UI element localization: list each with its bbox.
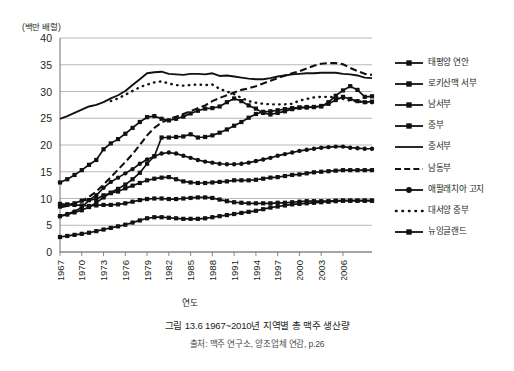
legend-item[interactable]: 태평양 연안 xyxy=(394,50,514,71)
y-tick-label: 25 xyxy=(40,112,52,124)
legend-symbol-icon xyxy=(394,55,424,67)
legend-item[interactable]: 로키산맥 서부 xyxy=(394,71,514,92)
x-tick-label: 1976 xyxy=(120,260,131,280)
y-tick-label: 15 xyxy=(40,166,52,178)
legend-item-label: 대서양 중부 xyxy=(428,203,469,215)
x-tick-label: 1988 xyxy=(207,260,218,280)
chart-legend: 태평양 연안로키산맥 서부남서부중부중서부남동부애팔래치아 고지대서양 중부뉴잉… xyxy=(394,50,514,241)
legend-symbol-icon xyxy=(394,224,424,236)
x-tick-label: 1991 xyxy=(229,260,240,280)
figure-caption: 그림 13.6 1967~2010년 지역별 총 맥주 생산량 xyxy=(0,318,514,332)
x-tick-label: 1973 xyxy=(98,260,109,280)
y-tick-label: 40 xyxy=(40,32,52,44)
y-tick-label: 30 xyxy=(40,86,52,98)
x-tick-label: 2003 xyxy=(316,260,327,280)
figure-source: 출처: 맥주 연구소, 양조업체 연감, p.26 xyxy=(0,337,514,349)
legend-item[interactable]: 남서부 xyxy=(394,92,514,113)
x-tick-label: 1982 xyxy=(163,260,174,280)
legend-item[interactable]: 중부 xyxy=(394,114,514,135)
legend-item-label: 뉴잉글랜드 xyxy=(428,224,467,236)
legend-symbol-icon xyxy=(394,76,424,88)
y-tick-label: 5 xyxy=(46,219,52,231)
y-tick-label: 0 xyxy=(46,246,52,258)
x-tick-label: 1970 xyxy=(76,260,87,280)
x-tick-label: 1997 xyxy=(272,260,283,280)
y-tick-label: 20 xyxy=(40,139,52,151)
x-tick-label: 1985 xyxy=(185,260,196,280)
legend-symbol-icon xyxy=(394,139,424,151)
x-tick-label: 2006 xyxy=(338,260,349,280)
legend-item[interactable]: 중서부 xyxy=(394,135,514,156)
legend-item[interactable]: 애팔래치아 고지 xyxy=(394,177,514,198)
legend-item[interactable]: 뉴잉글랜드 xyxy=(394,220,514,241)
x-axis-title: 연도 xyxy=(0,296,380,309)
x-tick-label: 1967 xyxy=(55,260,66,280)
legend-symbol-icon xyxy=(394,203,424,215)
legend-item-label: 중서부 xyxy=(428,139,451,151)
y-tick-label: 35 xyxy=(40,59,52,71)
legend-symbol-icon xyxy=(394,97,424,109)
legend-item-label: 중부 xyxy=(428,118,443,130)
series-0 xyxy=(60,72,372,119)
y-tick-label: 10 xyxy=(40,193,52,205)
legend-symbol-icon xyxy=(394,118,424,130)
legend-item-label: 애팔래치아 고지 xyxy=(428,182,484,194)
x-tick-label: 2000 xyxy=(294,260,305,280)
x-tick-label: 1994 xyxy=(251,259,262,280)
legend-symbol-icon xyxy=(394,182,424,194)
figure-container: (백만 배럴) 05101520253035401967197019731976… xyxy=(0,0,514,371)
legend-item[interactable]: 대서양 중부 xyxy=(394,198,514,219)
legend-symbol-icon xyxy=(394,161,424,173)
legend-item-label: 남동부 xyxy=(428,161,451,173)
legend-item-label: 로키산맥 서부 xyxy=(428,76,476,88)
legend-item-label: 남서부 xyxy=(428,97,451,109)
legend-item[interactable]: 남동부 xyxy=(394,156,514,177)
x-tick-label: 1979 xyxy=(142,260,153,280)
legend-item-label: 태평양 연안 xyxy=(428,55,469,67)
